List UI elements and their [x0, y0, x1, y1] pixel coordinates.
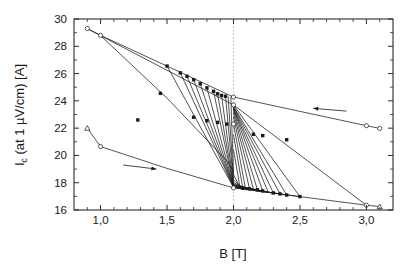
marker-filled-square: [261, 134, 264, 137]
x-axis-title-text: B [T]: [219, 246, 246, 261]
marker-open-circle: [85, 26, 89, 30]
y-tick-label: 24: [54, 95, 67, 107]
marker-open-circle: [231, 186, 235, 190]
marker-filled-square: [199, 82, 202, 85]
y-tick-label: 26: [54, 68, 67, 80]
marker-filled-square: [272, 191, 275, 194]
marker-filled-square: [185, 75, 188, 78]
y-axis-title-text: Ic (at 1 µV/cm) [A]: [12, 64, 29, 166]
marker-filled-square: [278, 192, 281, 195]
marker-filled-square: [216, 121, 219, 124]
marker-filled-square: [224, 95, 227, 98]
marker-open-circle: [231, 103, 235, 107]
marker-open-circle: [364, 124, 368, 128]
marker-open-circle: [231, 122, 235, 126]
marker-filled-square: [192, 78, 195, 81]
marker-filled-square: [298, 195, 301, 198]
marker-filled-square: [252, 133, 255, 136]
marker-filled-square: [261, 189, 264, 192]
marker-open-circle: [378, 126, 382, 130]
marker-filled-square: [205, 86, 208, 89]
marker-filled-square: [225, 122, 228, 125]
y-tick-label: 28: [54, 40, 67, 52]
marker-filled-square: [165, 64, 168, 67]
marker-filled-square: [136, 118, 139, 121]
y-tick-label: 30: [54, 13, 67, 25]
figure-container: 1,01,52,02,53,01618202224262830 B [T] Ic…: [0, 0, 409, 265]
marker-filled-square: [256, 188, 259, 191]
y-tick-label: 16: [54, 204, 67, 216]
x-axis-title: B [T]: [219, 246, 246, 261]
x-tick-label: 1,0: [93, 214, 109, 226]
marker-filled-square: [192, 116, 195, 119]
marker-open-circle: [231, 95, 235, 99]
y-axis-title: Ic (at 1 µV/cm) [A]: [12, 64, 29, 166]
x-tick-label: 1,5: [159, 214, 175, 226]
marker-filled-square: [248, 187, 251, 190]
y-tick-label: 20: [54, 149, 67, 161]
marker-filled-square: [285, 193, 288, 196]
marker-filled-square: [159, 92, 162, 95]
marker-filled-square: [241, 186, 244, 189]
marker-filled-square: [220, 94, 223, 97]
hysteresis-chart: 1,01,52,02,53,01618202224262830 B [T] Ic…: [0, 0, 409, 265]
marker-filled-square: [212, 90, 215, 93]
y-tick-label: 18: [54, 177, 67, 189]
x-tick-label: 2,0: [226, 214, 242, 226]
x-tick-label: 3,0: [358, 214, 374, 226]
marker-open-circle: [98, 144, 102, 148]
y-axis-title-rest: (at 1 µV/cm) [A]: [12, 64, 27, 158]
marker-filled-square: [205, 119, 208, 122]
y-tick-label: 22: [54, 122, 67, 134]
marker-filled-square: [216, 92, 219, 95]
marker-filled-square: [285, 138, 288, 141]
marker-filled-square: [179, 71, 182, 74]
marker-open-circle: [98, 33, 102, 37]
x-tick-label: 2,5: [292, 214, 308, 226]
